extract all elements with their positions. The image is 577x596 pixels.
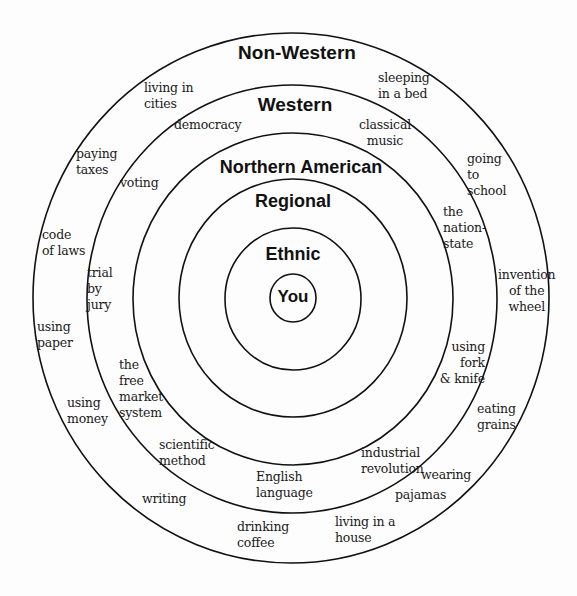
heading-you: You: [278, 288, 309, 305]
item-invention-of-the-wheel: invention of the wheel: [498, 267, 555, 315]
heading-regional: Regional: [255, 192, 331, 210]
item-using-money: using money: [67, 395, 108, 427]
item-going-to-school: going to school: [467, 151, 506, 199]
item-code-of-laws: code of laws: [42, 227, 85, 259]
item-living-in-cities: living in cities: [144, 80, 193, 112]
item-using-fork-and-knife: using fork & knife: [435, 339, 485, 387]
item-the-free-market-system: the free market system: [119, 357, 163, 421]
item-eating-grains: eating grains: [477, 401, 516, 433]
heading-ethnic: Ethnic: [265, 245, 320, 263]
item-scientific-method: scientific method: [159, 437, 215, 469]
item-drinking-coffee: drinking coffee: [237, 519, 289, 551]
item-sleeping-in-a-bed: sleeping in a bed: [378, 70, 430, 102]
item-living-in-a-house: living in a house: [335, 514, 395, 546]
item-democracy: democracy: [174, 117, 241, 133]
item-english-language: English language: [256, 469, 313, 501]
item-writing: writing: [142, 491, 186, 507]
item-paying-taxes: paying taxes: [76, 146, 117, 178]
item-using-paper: using paper: [37, 319, 73, 351]
heading-non-western: Non-Western: [238, 43, 356, 62]
item-trial-by-jury: trial by jury: [87, 265, 112, 313]
item-industrial-revolution: industrial revolution: [361, 445, 424, 477]
heading-western: Western: [258, 95, 333, 114]
heading-northern-american: Northern American: [220, 158, 382, 176]
item-classical-music: classical music: [359, 117, 411, 149]
item-voting: voting: [120, 175, 158, 191]
item-pajamas: pajamas: [395, 487, 446, 503]
item-the-nation-state: the nation- state: [443, 204, 486, 252]
item-wearing: wearing: [421, 467, 471, 483]
